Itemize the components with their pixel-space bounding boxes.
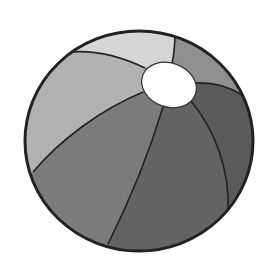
beach-ball-svg bbox=[0, 0, 273, 267]
beach-ball-illustration: beach ball bbox=[0, 0, 273, 267]
ball-panels bbox=[0, 0, 273, 267]
